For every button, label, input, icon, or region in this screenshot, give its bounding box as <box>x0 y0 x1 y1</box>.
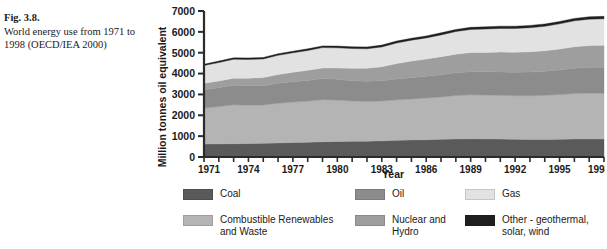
legend-label: Combustible Renewables and Waste <box>220 214 333 237</box>
x-tick-label: 1989 <box>460 164 483 175</box>
legend-swatch <box>355 215 385 226</box>
x-tick-label: 1971 <box>198 164 221 175</box>
y-tick-label: 4000 <box>172 67 196 79</box>
legend-swatch <box>183 189 213 200</box>
y-tick-label: 2000 <box>172 109 196 121</box>
legend-swatch <box>355 189 385 200</box>
y-axis-title: Million tonnes oil equivalent <box>156 26 168 167</box>
y-tick-label: 1000 <box>172 130 196 142</box>
x-tick-label: 1998 <box>588 164 605 175</box>
legend-label: Coal <box>220 188 241 200</box>
figure-caption-text: World energy use from 1971 to 1998 (OECD… <box>4 25 152 52</box>
legend-label: Gas <box>502 188 520 200</box>
legend-item-gas[interactable]: Gas <box>465 188 520 200</box>
stacked-area-chart: 01000200030004000500060007000 1971197419… <box>155 2 605 182</box>
x-tick-label: 1986 <box>415 164 438 175</box>
legend-item-oil[interactable]: Oil <box>355 188 404 200</box>
legend-label: Other - geothermal, solar, wind <box>502 214 589 237</box>
legend-swatch <box>465 215 495 226</box>
legend-label: Oil <box>392 188 404 200</box>
legend-swatch <box>183 215 213 226</box>
legend-item-other-geothermal-solar-wind[interactable]: Other - geothermal, solar, wind <box>465 214 589 237</box>
x-tick-label: 1977 <box>282 164 305 175</box>
legend-row-top: CoalOilGas <box>183 188 603 215</box>
y-tick-label: 3000 <box>172 88 196 100</box>
figure-label: Fig. 3.8. <box>4 11 152 25</box>
legend-item-coal[interactable]: Coal <box>183 188 241 200</box>
chart-container: 01000200030004000500060007000 1971197419… <box>155 2 605 182</box>
x-tick-label: 1995 <box>548 164 571 175</box>
legend-row-bottom: Combustible Renewables and WasteNuclear … <box>183 214 603 241</box>
y-tick-label: 0 <box>189 151 195 163</box>
legend-label: Nuclear and Hydro <box>392 214 446 237</box>
y-tick-label: 6000 <box>172 26 196 38</box>
y-tick-label: 7000 <box>172 5 196 17</box>
x-tick-label: 1974 <box>237 164 260 175</box>
x-axis-title: Year <box>382 168 404 180</box>
x-tick-label: 1992 <box>504 164 527 175</box>
legend-swatch <box>465 189 495 200</box>
figure-caption: Fig. 3.8. World energy use from 1971 to … <box>4 11 152 52</box>
y-tick-label: 5000 <box>172 47 196 59</box>
chart-legend: CoalOilGas Combustible Renewables and Wa… <box>183 188 603 246</box>
x-tick-label: 1980 <box>326 164 349 175</box>
legend-item-nuclear-and-hydro[interactable]: Nuclear and Hydro <box>355 214 446 237</box>
area-layers-group <box>204 16 604 157</box>
y-tick-labels-group: 01000200030004000500060007000 <box>172 5 196 163</box>
legend-item-combustible-renewables-and-waste[interactable]: Combustible Renewables and Waste <box>183 214 333 237</box>
